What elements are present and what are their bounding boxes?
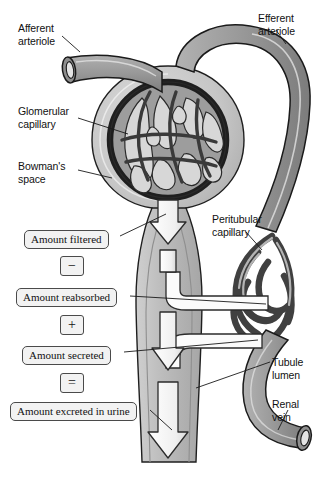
label-peritubular-capillary: Peritubular capillary (212, 213, 262, 238)
operator-plus: + (60, 315, 84, 335)
leader-afferent (62, 36, 80, 52)
label-renal-vein: Renal vein (272, 398, 299, 423)
glomerular-capillary-tuft (110, 82, 226, 198)
nephron-diagram-figure: Afferent arteriole Efferent arteriole Gl… (0, 0, 335, 480)
label-glomerular-capillary: Glomerular capillary (18, 105, 69, 130)
label-afferent-arteriole: Afferent arteriole (18, 22, 55, 47)
box-amount-filtered: Amount filtered (24, 230, 109, 249)
peritubular-capillary-network (234, 236, 292, 342)
label-efferent-arteriole: Efferent arteriole (258, 12, 295, 37)
label-tubule-lumen: Tubule lumen (272, 356, 303, 381)
box-amount-reabsorbed: Amount reabsorbed (16, 288, 117, 307)
box-amount-secreted: Amount secreted (22, 346, 111, 365)
operator-minus: − (60, 256, 84, 276)
box-amount-excreted: Amount excreted in urine (10, 402, 137, 421)
tubule-flow-stem (160, 250, 176, 272)
operator-equals: = (60, 373, 84, 393)
label-bowmans-space: Bowman's space (18, 160, 65, 185)
